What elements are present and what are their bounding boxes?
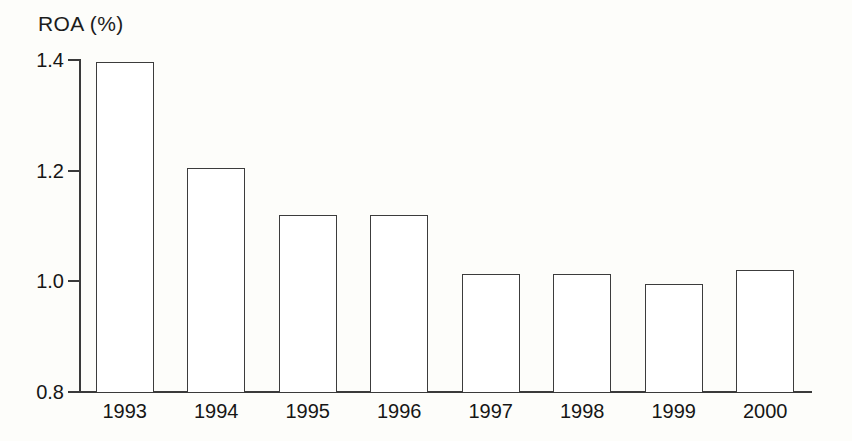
y-axis-tick-label: 1.2 [0, 159, 64, 182]
bar [462, 274, 520, 392]
y-axis-tick-label: 1.0 [0, 270, 64, 293]
bar [736, 270, 794, 392]
y-axis-tick-mark [68, 170, 80, 172]
x-axis-tick-label: 1995 [286, 400, 331, 423]
x-axis-tick-label: 1999 [652, 400, 697, 423]
bar-chart-figure: ROA (%) 1.41.21.00.8 1993199419951996199… [0, 0, 852, 441]
bar [553, 274, 611, 392]
y-axis-tick-label: 0.8 [0, 381, 64, 404]
x-axis-tick-label: 1993 [103, 400, 148, 423]
y-axis-tick-mark [68, 59, 80, 61]
bar [279, 215, 337, 392]
y-axis-line [79, 59, 81, 393]
x-axis-tick-label: 1994 [194, 400, 239, 423]
bar [370, 215, 428, 392]
bar [96, 62, 154, 392]
bar [187, 168, 245, 392]
x-axis-tick-label: 1996 [377, 400, 422, 423]
x-axis-tick-label: 1997 [469, 400, 514, 423]
x-axis-tick-label: 1998 [560, 400, 605, 423]
y-axis-tick-mark [68, 280, 80, 282]
y-axis-tick-mark [68, 391, 80, 393]
chart-axis-title: ROA (%) [38, 12, 124, 36]
x-axis-tick-label: 2000 [743, 400, 788, 423]
y-axis-tick-label: 1.4 [0, 49, 64, 72]
bar [645, 284, 703, 392]
